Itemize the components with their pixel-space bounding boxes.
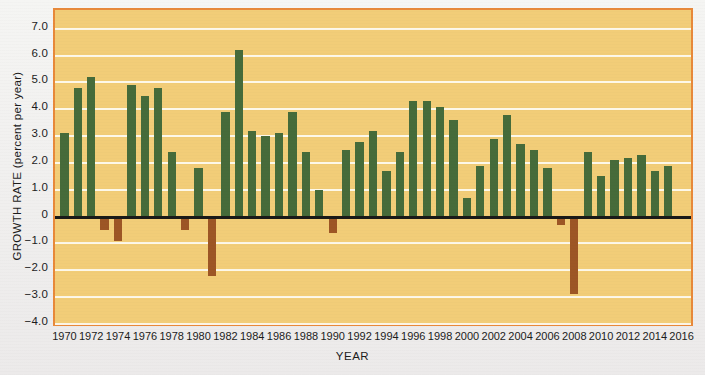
bar-1996 xyxy=(409,101,417,216)
bar-2015 xyxy=(664,166,672,217)
bar-1995 xyxy=(396,152,404,216)
gridline xyxy=(55,242,691,244)
bar-1978 xyxy=(168,152,176,216)
x-axis-label: YEAR xyxy=(0,350,705,362)
bar-1993 xyxy=(369,131,377,217)
plot-area xyxy=(55,10,691,324)
plot-frame xyxy=(53,8,693,326)
bar-1987 xyxy=(288,112,296,217)
gridline xyxy=(55,28,691,30)
bar-1976 xyxy=(141,96,149,217)
x-axis-tick: 1988 xyxy=(294,330,318,342)
y-axis-tick: 6.0 xyxy=(2,48,48,60)
x-axis-tick: 1982 xyxy=(213,330,237,342)
bar-2002 xyxy=(490,139,498,217)
y-axis-tick: 5.0 xyxy=(2,74,48,86)
x-axis-tick: 1972 xyxy=(79,330,103,342)
bar-1991 xyxy=(342,150,350,217)
bar-1977 xyxy=(154,88,162,217)
x-axis-tick: 2000 xyxy=(455,330,479,342)
bar-1989 xyxy=(315,190,323,217)
bar-1970 xyxy=(60,133,68,216)
chart-figure: GROWTH RATE (percent per year) 7.06.05.0… xyxy=(0,0,705,375)
bar-2011 xyxy=(610,160,618,216)
gridline xyxy=(55,296,691,298)
bar-1998 xyxy=(436,107,444,217)
bar-2008 xyxy=(570,217,578,295)
bar-2001 xyxy=(476,166,484,217)
bar-1994 xyxy=(382,171,390,217)
bar-2003 xyxy=(503,115,511,217)
y-axis-tick: 7.0 xyxy=(2,21,48,33)
gridline xyxy=(55,108,691,110)
bar-1999 xyxy=(449,120,457,217)
x-axis-tick: 1974 xyxy=(106,330,130,342)
bar-2012 xyxy=(624,158,632,217)
y-axis-tick: 0 xyxy=(2,209,48,221)
x-axis-tick: 1970 xyxy=(52,330,76,342)
x-axis-tick: 2004 xyxy=(508,330,532,342)
bar-1979 xyxy=(181,217,189,230)
x-axis-tick: 1998 xyxy=(428,330,452,342)
x-axis-tick: 1994 xyxy=(374,330,398,342)
x-axis-tick: 2006 xyxy=(535,330,559,342)
bar-1982 xyxy=(221,112,229,217)
bar-1984 xyxy=(248,131,256,217)
y-axis-tick: −1.0 xyxy=(2,235,48,247)
bar-2009 xyxy=(584,152,592,216)
gridline xyxy=(55,269,691,271)
bar-1975 xyxy=(127,85,135,217)
bar-2006 xyxy=(543,168,551,216)
bar-2005 xyxy=(530,150,538,217)
x-axis-tick: 1976 xyxy=(133,330,157,342)
x-axis-tick-labels: 1970197219741976197819801982198419861988… xyxy=(53,330,693,346)
bar-1988 xyxy=(302,152,310,216)
x-axis-tick: 2002 xyxy=(482,330,506,342)
gridline xyxy=(55,81,691,83)
bar-1974 xyxy=(114,217,122,241)
x-axis-tick: 1978 xyxy=(159,330,183,342)
bar-1992 xyxy=(355,142,363,217)
x-axis-tick: 2012 xyxy=(616,330,640,342)
gridline xyxy=(55,55,691,57)
y-axis-tick: 3.0 xyxy=(2,128,48,140)
y-axis-tick: 2.0 xyxy=(2,155,48,167)
y-axis-tick: 4.0 xyxy=(2,101,48,113)
bar-2013 xyxy=(637,155,645,217)
y-axis-tick: 1.0 xyxy=(2,182,48,194)
bar-1973 xyxy=(100,217,108,230)
bar-1990 xyxy=(329,217,337,233)
bar-1981 xyxy=(208,217,216,276)
x-axis-tick: 1980 xyxy=(186,330,210,342)
x-axis-tick: 2014 xyxy=(643,330,667,342)
bar-1985 xyxy=(261,136,269,217)
x-axis-tick: 1986 xyxy=(267,330,291,342)
y-axis-tick: −2.0 xyxy=(2,262,48,274)
bar-2004 xyxy=(516,144,524,216)
bar-1972 xyxy=(87,77,95,217)
y-axis-tick-labels: 7.06.05.04.03.02.01.00−1.0−2.0−3.0−4.0 xyxy=(0,0,48,375)
bar-1986 xyxy=(275,133,283,216)
y-axis-tick: −3.0 xyxy=(2,289,48,301)
x-axis-tick: 1984 xyxy=(240,330,264,342)
bar-1971 xyxy=(74,88,82,217)
bar-1983 xyxy=(235,50,243,216)
x-axis-tick: 1992 xyxy=(347,330,371,342)
y-axis-tick: −4.0 xyxy=(2,316,48,328)
bar-2000 xyxy=(463,198,471,217)
x-axis-tick: 2008 xyxy=(562,330,586,342)
x-axis-tick: 2010 xyxy=(589,330,613,342)
x-axis-tick: 1996 xyxy=(401,330,425,342)
bar-1980 xyxy=(194,168,202,216)
x-axis-tick: 1990 xyxy=(320,330,344,342)
bar-1997 xyxy=(423,101,431,216)
bar-2010 xyxy=(597,176,605,216)
gridline xyxy=(55,323,691,325)
bar-2014 xyxy=(651,171,659,217)
x-axis-tick: 2016 xyxy=(669,330,693,342)
zero-axis-line xyxy=(55,216,691,219)
